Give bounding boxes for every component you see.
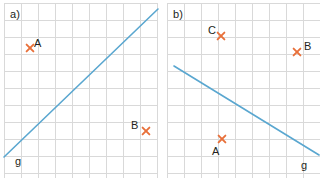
point-label-a: A (34, 38, 41, 49)
panel-a: a) g A B (0, 0, 160, 181)
grid-b (163, 0, 320, 181)
line-label-g-b: g (301, 160, 307, 171)
point-label-b: B (131, 120, 138, 131)
figure-root: a) g A B b) g C B A (0, 0, 320, 181)
point-label-a: A (212, 146, 219, 157)
line-label-g-a: g (15, 156, 21, 167)
panel-b: b) g C B A (163, 0, 320, 181)
panel-a-label: a) (10, 9, 20, 20)
point-label-b: B (304, 41, 311, 52)
grid-a (0, 0, 160, 181)
point-label-c: C (208, 25, 216, 36)
panel-b-label: b) (173, 9, 183, 20)
